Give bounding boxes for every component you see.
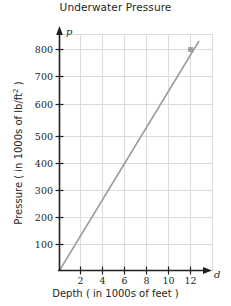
x-tick-label-group: 2 4 6 8 10 12	[0, 0, 231, 306]
x-axis-variable-label: d	[214, 269, 220, 280]
y-axis-title-wrapper: Pressure ( in 1000s of lb/ft2 )	[12, 68, 26, 238]
y-axis-title: Pressure ( in 1000s of lb/ft2 )	[12, 68, 26, 238]
y-axis-title-main: Pressure ( in 1000s of lb/ft	[13, 93, 24, 225]
x-tick-label: 4	[93, 275, 113, 286]
x-tick-label: 2	[71, 275, 91, 286]
chart-figure: Underwater Pressure	[0, 0, 231, 306]
y-axis-title-exponent: 2	[12, 88, 20, 92]
x-tick-label: 8	[137, 275, 157, 286]
x-tick-label: 6	[115, 275, 135, 286]
y-axis-title-tail: )	[13, 81, 24, 88]
x-axis-title: Depth ( in 1000s of feet )	[0, 288, 231, 299]
x-tick-label: 12	[181, 275, 201, 286]
y-axis-variable-label: p	[66, 26, 72, 37]
x-tick-label: 10	[159, 275, 179, 286]
